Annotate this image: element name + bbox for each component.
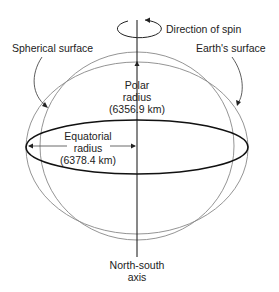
polar-label-line1: Polar [107,79,167,91]
equatorial-label-value: (6378.4 km) [52,154,124,166]
spin-arrowhead-icon [145,18,150,24]
earth-leader-line [232,57,242,103]
spin-direction-arrow [117,20,161,38]
spin-label: Direction of spin [166,23,241,35]
equatorial-radius-label: Equatorial radius (6378.4 km) [52,130,124,166]
equatorial-label-line1: Equatorial [52,130,124,142]
axis-label-line1: North-south [102,259,172,271]
equatorial-arrowhead-left-icon [28,144,33,149]
earth-leader-arrowhead-icon [236,100,241,106]
spherical-leader-line [34,57,46,106]
axis-label-line2: axis [102,271,172,283]
equatorial-arrowhead-right-icon [131,144,136,149]
polar-label-line2: radius [107,91,167,103]
spherical-surface-label: Spherical surface [12,42,93,54]
equatorial-label-line2: radius [52,142,124,154]
north-south-axis-label: North-south axis [102,259,172,283]
earth-surface-label: Earth's surface [196,42,266,54]
polar-label-value: (6356.9 km) [107,103,167,115]
polar-radius-label: Polar radius (6356.9 km) [107,79,167,115]
